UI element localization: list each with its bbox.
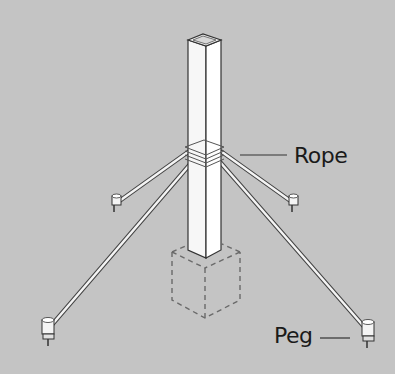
peg-front-right — [362, 320, 374, 349]
rope-label: Rope — [294, 145, 347, 167]
peg-back-left — [112, 194, 121, 212]
post-guy-rope-diagram: Rope Peg — [0, 0, 395, 374]
peg-label: Peg — [274, 325, 312, 347]
post — [188, 34, 221, 258]
peg-back-right — [289, 194, 298, 212]
diagram-illustration — [0, 0, 395, 374]
peg-front-left — [42, 318, 54, 347]
